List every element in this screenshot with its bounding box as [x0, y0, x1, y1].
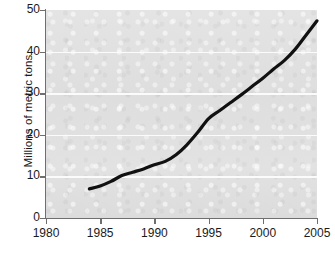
x-tick-mark-1995 — [209, 219, 210, 224]
y-tick-label-0: 0 — [0, 210, 40, 224]
x-tick-label-1985: 1985 — [77, 226, 123, 240]
y-tick-label-10: 10 — [0, 168, 40, 182]
x-tick-label-1990: 1990 — [131, 226, 177, 240]
x-tick-label-2000: 2000 — [240, 226, 286, 240]
x-tick-label-1980: 1980 — [23, 226, 69, 240]
series-line-millions-of-metric-tons — [89, 21, 317, 189]
y-tick-label-50: 50 — [0, 2, 40, 16]
data-series-layer — [46, 10, 317, 218]
x-tick-mark-1990 — [154, 219, 155, 224]
y-tick-label-30: 30 — [0, 85, 40, 99]
y-tick-label-20: 20 — [0, 127, 40, 141]
y-tick-mark-0 — [40, 218, 45, 219]
x-tick-mark-1985 — [100, 219, 101, 224]
x-axis-line — [45, 218, 318, 219]
y-tick-mark-30 — [40, 93, 45, 94]
x-tick-label-2005: 2005 — [294, 226, 335, 240]
x-tick-label-1995: 1995 — [186, 226, 232, 240]
y-tick-mark-10 — [40, 176, 45, 177]
y-tick-label-40: 40 — [0, 44, 40, 58]
figure-caption — [3, 250, 329, 258]
y-tick-mark-20 — [40, 135, 45, 136]
x-tick-mark-2000 — [263, 219, 264, 224]
y-tick-mark-40 — [40, 52, 45, 53]
x-tick-mark-2005 — [317, 219, 318, 224]
y-tick-mark-50 — [40, 10, 45, 11]
x-tick-mark-1980 — [46, 219, 47, 224]
